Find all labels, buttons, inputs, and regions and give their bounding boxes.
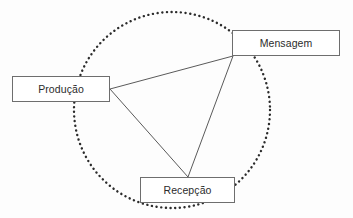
- connector-mensagem-recepcao: [188, 56, 233, 177]
- connector-producao-mensagem: [110, 56, 233, 89]
- node-recepcao-label: Recepção: [163, 185, 211, 196]
- node-mensagem[interactable]: Mensagem: [232, 30, 340, 56]
- node-producao-label: Produção: [38, 84, 84, 95]
- node-producao[interactable]: Produção: [12, 76, 110, 102]
- diagram-canvas: Produção Mensagem Recepção: [0, 0, 353, 218]
- connector-producao-recepcao: [110, 89, 188, 177]
- node-mensagem-label: Mensagem: [260, 38, 313, 49]
- node-recepcao[interactable]: Recepção: [140, 177, 235, 203]
